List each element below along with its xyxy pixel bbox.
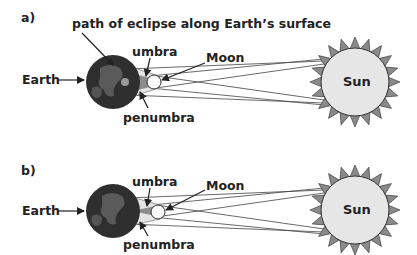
panel-a-label: a) [21,12,35,25]
sun-label-b: Sun [343,203,371,216]
moon-a [147,75,161,89]
umbra-label-a: umbra [132,46,177,59]
moon-b [151,205,165,219]
panel-b-label: b) [21,165,36,178]
penumbra-label-b: penumbra [123,239,195,252]
earth-a [86,55,140,109]
sun-label-a: Sun [343,75,371,88]
earth-b [86,184,140,238]
penumbra-label-a: penumbra [123,112,195,125]
earth-label-a: Earth [22,74,60,87]
umbra-label-b: umbra [132,176,177,189]
moon-label-a: Moon [206,52,245,65]
path-of-eclipse-label: path of eclipse along Earth’s surface [72,18,331,31]
moon-label-b: Moon [206,180,245,193]
earth-label-b: Earth [22,205,60,218]
